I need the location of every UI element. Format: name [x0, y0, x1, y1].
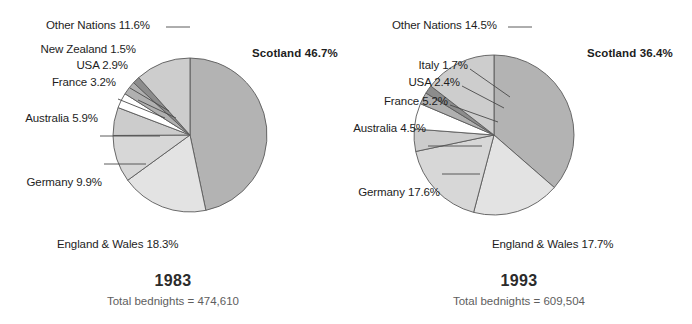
chart-total-bednights: Total bednights = 474,610 — [0, 295, 346, 307]
pie-slices-1983: Scotland 46.7%England & Wales 18.3%Germa… — [113, 58, 267, 212]
slice-label-other-nations: Other Nations 14.5% — [392, 19, 497, 32]
slice-label-italy: Italy 1.7% — [346, 59, 468, 72]
chart-panel-1983: Scotland 46.7%England & Wales 18.3%Germa… — [0, 0, 346, 324]
chart-year-title: 1993 — [346, 272, 692, 290]
pie-slice-scotland[interactable]: Scotland 46.7% — [190, 58, 267, 210]
chart-total-bednights: Total bednights = 609,504 — [346, 295, 692, 307]
chart-panel-1993: Scotland 36.4%England & Wales 17.7%Germa… — [346, 0, 692, 324]
slice-label-england-wales: England & Wales 18.3% — [57, 238, 179, 251]
slice-label-france: France 3.2% — [0, 76, 116, 89]
chart-year-title: 1983 — [0, 272, 346, 290]
slice-label-scotland: Scotland 36.4% — [587, 47, 673, 60]
slice-label-new-zealand: New Zealand 1.5% — [0, 43, 136, 56]
slice-label-scotland: Scotland 46.7% — [252, 47, 338, 60]
slice-label-usa: USA 2.9% — [0, 59, 128, 72]
slice-label-england-wales: England & Wales 17.7% — [492, 238, 614, 251]
slice-label-france: France 5.2% — [346, 95, 448, 108]
slice-label-germany: Germany 9.9% — [0, 176, 102, 189]
pie-chart-figure: Scotland 46.7%England & Wales 18.3%Germa… — [0, 0, 692, 324]
slice-label-other-nations: Other Nations 11.6% — [46, 19, 150, 32]
slice-label-germany: Germany 17.6% — [346, 186, 440, 199]
slice-label-usa: USA 2.4% — [346, 76, 460, 89]
slice-label-australia: Australia 5.9% — [0, 112, 98, 125]
slice-label-australia: Australia 4.5% — [346, 122, 426, 135]
